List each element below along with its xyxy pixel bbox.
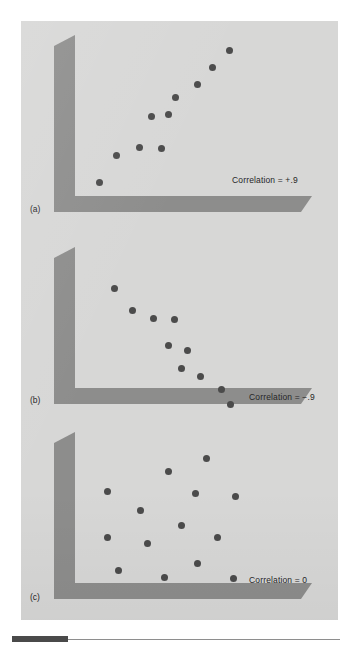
data-point <box>113 152 120 159</box>
data-point <box>171 316 178 323</box>
plot-area-c: Correlation = 0 (c) <box>21 415 338 620</box>
y-axis-slab <box>54 247 75 388</box>
data-point <box>161 574 168 581</box>
figure-plate: Correlation = +.9 (a) Correlation = −.9 … <box>21 21 338 620</box>
data-point <box>214 534 221 541</box>
panel-a: Correlation = +.9 (a) <box>21 21 338 226</box>
data-point <box>136 144 143 151</box>
data-point <box>115 567 122 574</box>
correlation-label-a: Correlation = +.9 <box>232 175 298 185</box>
axis-frame-b <box>21 225 338 417</box>
correlation-label-b: Correlation = −.9 <box>249 392 315 402</box>
y-axis-slab <box>54 432 75 583</box>
data-point <box>172 94 179 101</box>
y-axis-slab <box>54 35 75 196</box>
data-point <box>178 522 185 529</box>
data-point <box>96 179 103 186</box>
data-point <box>209 64 216 71</box>
data-point <box>203 455 210 462</box>
panel-b: Correlation = −.9 (b) <box>21 225 338 417</box>
data-point <box>144 540 151 547</box>
data-point <box>230 575 237 582</box>
bottom-rule-thick-segment <box>12 636 68 642</box>
data-point <box>158 145 165 152</box>
data-point <box>165 342 172 349</box>
data-point <box>104 488 111 495</box>
data-point <box>165 468 172 475</box>
axis-frame-c <box>21 415 338 620</box>
panel-letter-a: (a) <box>30 204 40 214</box>
plot-area-b: Correlation = −.9 (b) <box>21 225 338 417</box>
data-point <box>218 386 225 393</box>
data-point <box>178 365 185 372</box>
panel-letter-b: (b) <box>30 395 40 405</box>
data-point <box>184 347 191 354</box>
data-point <box>111 285 118 292</box>
data-point <box>165 111 172 118</box>
x-axis-slab <box>54 196 312 212</box>
panel-c: Correlation = 0 (c) <box>21 415 338 620</box>
panel-letter-c: (c) <box>30 592 40 602</box>
axis-frame-a <box>21 21 338 226</box>
x-axis-slab <box>54 583 312 599</box>
data-point <box>232 493 239 500</box>
plot-area-a: Correlation = +.9 (a) <box>21 21 338 226</box>
data-point <box>197 373 204 380</box>
data-point <box>227 401 234 408</box>
data-point <box>129 307 136 314</box>
data-point <box>226 47 233 54</box>
data-point <box>194 560 201 567</box>
correlation-label-c: Correlation = 0 <box>249 575 307 585</box>
data-point <box>150 315 157 322</box>
data-point <box>104 534 111 541</box>
data-point <box>137 507 144 514</box>
data-point <box>192 490 199 497</box>
data-point <box>148 113 155 120</box>
data-point <box>194 81 201 88</box>
bottom-rule-thin-segment <box>68 639 340 640</box>
